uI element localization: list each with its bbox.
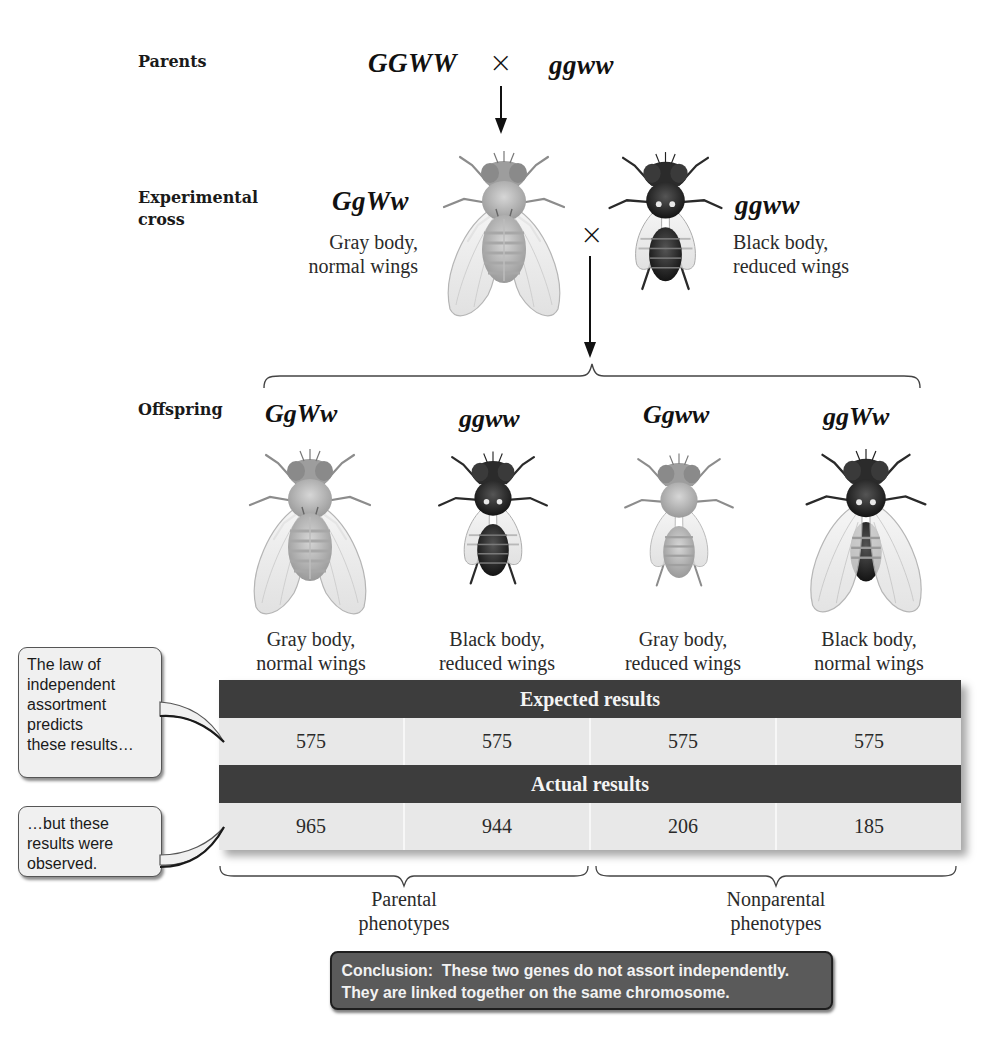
group-label-line: phenotypes (686, 911, 866, 935)
callout-line: independent (27, 675, 153, 695)
parents-label: Parents (138, 52, 207, 71)
phenotype-line: reduced wings (590, 651, 776, 675)
actual-value-3: 206 (591, 803, 777, 850)
offspring-phenotype-2: Black body, reduced wings (404, 627, 590, 675)
actual-results-row: 965 944 206 185 (219, 803, 961, 850)
phenotype-line: Black body, (733, 230, 883, 254)
experimental-cross-label: Experimental cross (138, 187, 258, 231)
offspring-genotype-3: Ggww (643, 400, 709, 430)
actual-value-2: 944 (405, 803, 591, 850)
conclusion-line1: Conclusion: These two genes do not assor… (342, 959, 822, 981)
offspring-label: Offspring (138, 400, 223, 419)
callout-line: The law of (27, 655, 153, 675)
callout-line: predicts (27, 715, 153, 735)
offspring-genotype-4: ggWw (823, 402, 889, 432)
actual-value-1: 965 (219, 803, 405, 850)
phenotype-line: Black body, (404, 627, 590, 651)
black-fly-normal-wings-icon (795, 443, 937, 621)
callout-expected: The law of independent assortment predic… (18, 647, 162, 778)
phenotype-line: normal wings (218, 651, 404, 675)
cross-genotype-right: ggww (735, 190, 800, 221)
experimental-cross-label-line2: cross (138, 209, 258, 231)
expected-results-row: 575 575 575 575 (219, 718, 961, 765)
phenotype-line: reduced wings (404, 651, 590, 675)
parental-brace (218, 864, 590, 888)
phenotype-line: Gray body, (288, 230, 418, 254)
offspring-phenotype-1: Gray body, normal wings (218, 627, 404, 675)
group-label-line: phenotypes (314, 911, 494, 935)
actual-results-header: Actual results (219, 765, 961, 803)
parental-phenotypes-label: Parental phenotypes (314, 887, 494, 935)
black-fly-reduced-wings-icon (428, 444, 558, 592)
offspring-phenotype-4: Black body, normal wings (776, 627, 962, 675)
nonparental-phenotypes-label: Nonparental phenotypes (686, 887, 866, 935)
cross-phenotype-left: Gray body, normal wings (288, 230, 418, 278)
expected-value-4: 575 (777, 718, 961, 765)
actual-value-4: 185 (777, 803, 961, 850)
conclusion-line2: They are linked together on the same chr… (342, 981, 822, 1003)
expected-value-3: 575 (591, 718, 777, 765)
gray-fly-normal-wings-icon (235, 443, 385, 623)
group-label-line: Parental (314, 887, 494, 911)
cross-phenotype-right: Black body, reduced wings (733, 230, 883, 278)
expected-results-header: Expected results (219, 680, 961, 718)
expected-value-2: 575 (405, 718, 591, 765)
callout-line: results were (27, 834, 153, 854)
gray-fly-reduced-wings-icon (614, 446, 744, 594)
phenotype-line: Gray body, (218, 627, 404, 651)
callout-line: assortment (27, 695, 153, 715)
offspring-brace (262, 362, 922, 390)
cross-genotype-left: GgWw (332, 186, 409, 217)
black-fly-reduced-wings-icon (598, 146, 733, 296)
nonparental-brace (594, 864, 958, 888)
gray-fly-normal-wings-icon (430, 145, 578, 325)
parent-genotype-right: ggww (549, 50, 614, 81)
phenotype-line: Black body, (776, 627, 962, 651)
experimental-cross-label-line1: Experimental (138, 187, 258, 209)
offspring-phenotype-3: Gray body, reduced wings (590, 627, 776, 675)
down-arrow-icon (584, 256, 596, 358)
callout-line: …but these (27, 814, 153, 834)
offspring-genotype-1: GgWw (265, 399, 337, 429)
cross-symbol-icon: × (489, 46, 512, 79)
phenotype-line: reduced wings (733, 254, 883, 278)
phenotype-line: normal wings (776, 651, 962, 675)
group-label-line: Nonparental (686, 887, 866, 911)
callout-actual: …but these results were observed. (18, 806, 162, 877)
parent-genotype-left: GGWW (368, 48, 457, 79)
callout-line: observed. (27, 854, 153, 874)
callout-line: these results… (27, 735, 153, 755)
results-table: Expected results 575 575 575 575 Actual … (219, 680, 961, 850)
phenotype-line: Gray body, (590, 627, 776, 651)
conclusion-box: Conclusion: These two genes do not assor… (330, 951, 833, 1010)
expected-value-1: 575 (219, 718, 405, 765)
phenotype-line: normal wings (288, 254, 418, 278)
down-arrow-icon (495, 86, 507, 134)
offspring-genotype-2: ggww (459, 404, 520, 434)
callout-pointer-expected (158, 700, 228, 750)
